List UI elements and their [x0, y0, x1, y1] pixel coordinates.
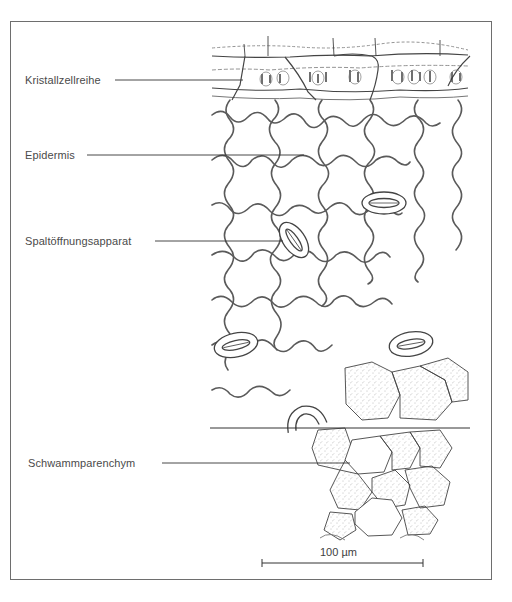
leaf-epidermis-drawing [0, 0, 512, 602]
scale-bar-label: 100 µm [320, 546, 357, 558]
scale-bar [262, 559, 423, 567]
spongy-parenchyma [312, 358, 468, 540]
leader-lines [87, 80, 350, 463]
crystal-cell-row [212, 36, 470, 100]
label-spaltoeffnungsapparat: Spaltöffnungsapparat [25, 235, 131, 248]
label-epidermis: Epidermis [25, 149, 75, 162]
label-kristallzellreihe: Kristallzellreihe [25, 74, 101, 87]
label-schwammparenchym: Schwammparenchym [28, 457, 135, 470]
